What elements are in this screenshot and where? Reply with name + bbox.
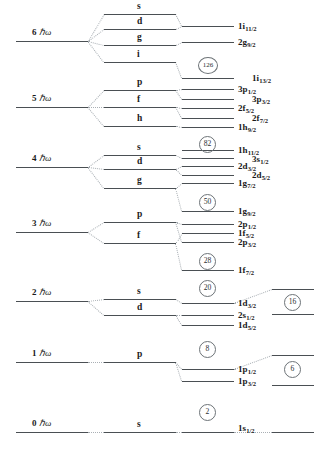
spin-orbit-level-l-1f5 xyxy=(182,233,234,234)
spin-orbit-label-l-1s1: 1s1/2 xyxy=(238,424,255,434)
oscillator-label-n3: 3 ℏω xyxy=(32,219,52,228)
oscillator-level-n3 xyxy=(16,232,88,233)
orbital-label-o-4s: s xyxy=(137,143,141,153)
orbital-level-o-0s xyxy=(104,432,176,433)
orbital-level-o-6i xyxy=(104,62,176,63)
orbital-level-o-5f xyxy=(104,107,176,108)
magic-number-50: 50 xyxy=(199,194,216,211)
far-right-level-fr-4 xyxy=(272,385,314,386)
spin-orbit-level-l-2d5 xyxy=(182,175,234,176)
spin-orbit-level-l-2s1 xyxy=(182,315,234,316)
orbital-level-o-5p xyxy=(104,90,176,91)
level-connector xyxy=(88,155,105,168)
level-connector xyxy=(175,90,182,100)
orbital-level-o-1p xyxy=(104,362,176,363)
spin-orbit-level-l-2f7 xyxy=(182,118,234,119)
magic-number-2: 2 xyxy=(199,404,216,421)
level-connector xyxy=(88,299,104,302)
spin-orbit-level-l-2f5 xyxy=(182,108,234,109)
oscillator-level-n4 xyxy=(16,167,88,168)
spin-orbit-level-l-2p3 xyxy=(182,242,234,243)
magic-number-6: 6 xyxy=(284,361,301,378)
spin-orbit-level-l-1d3 xyxy=(182,303,234,304)
spin-orbit-level-l-2d3 xyxy=(182,166,234,167)
spin-orbit-label-l-1f7: 1f7/2 xyxy=(238,266,254,276)
spin-orbit-label-l-2p3: 2p3/2 xyxy=(238,238,256,248)
spin-orbit-label-l-1g7: 1g7/2 xyxy=(238,179,256,189)
orbital-label-o-1p: p xyxy=(137,350,142,360)
orbital-label-o-6d: d xyxy=(137,17,142,27)
spin-orbit-level-l-1h9 xyxy=(182,127,234,128)
level-connector xyxy=(175,14,182,26)
level-connector xyxy=(175,315,182,326)
level-connector xyxy=(87,232,104,244)
magic-number-8: 8 xyxy=(199,341,216,358)
level-connector xyxy=(88,362,104,363)
orbital-label-o-3f: f xyxy=(137,231,140,241)
spin-orbit-level-l-1d5 xyxy=(182,325,234,326)
spin-orbit-level-l-1p3 xyxy=(182,381,234,382)
oscillator-label-n5: 5 ℏω xyxy=(32,94,52,103)
oscillator-label-n6: 6 ℏω xyxy=(32,28,52,37)
magic-number-28: 28 xyxy=(199,253,216,270)
spin-orbit-label-l-1p1: 1p1/2 xyxy=(238,365,256,375)
spin-orbit-level-l-1p1 xyxy=(182,369,234,370)
spin-orbit-level-l-2p1 xyxy=(182,224,234,225)
far-right-level-fr-5 xyxy=(272,432,314,433)
spin-orbit-level-l-3s1 xyxy=(182,158,234,159)
spin-orbit-label-l-1i13: 1i13/2 xyxy=(252,74,271,84)
far-right-level-fr-1 xyxy=(272,289,314,290)
spin-orbit-label-l-1d3: 1d3/2 xyxy=(238,299,256,309)
orbital-level-o-4d xyxy=(104,169,176,170)
oscillator-level-n6 xyxy=(16,41,88,42)
level-connector xyxy=(87,107,104,127)
level-connector xyxy=(88,107,104,108)
spin-orbit-label-l-1i11: 1i11/2 xyxy=(238,22,257,32)
shell-model-diagram: 6 ℏω5 ℏω4 ℏω3 ℏω2 ℏω1 ℏω0 ℏωsdgipfhsdgpf… xyxy=(0,0,315,450)
orbital-label-o-4g: g xyxy=(137,176,142,186)
orbital-label-o-5f: f xyxy=(137,95,140,105)
level-connector xyxy=(175,299,182,304)
spin-orbit-label-l-2g9: 2g9/2 xyxy=(238,38,256,48)
oscillator-level-n0 xyxy=(16,432,88,433)
orbital-label-o-2s: s xyxy=(137,287,141,297)
spin-orbit-level-l-3p1 xyxy=(182,89,234,90)
magic-number-126: 126 xyxy=(198,57,218,74)
spin-orbit-level-l-2g9 xyxy=(182,42,234,43)
level-connector xyxy=(88,222,105,233)
oscillator-label-n1: 1 ℏω xyxy=(32,349,52,358)
level-connector xyxy=(175,62,182,78)
oscillator-label-n4: 4 ℏω xyxy=(32,154,52,163)
orbital-level-o-2d xyxy=(104,315,176,316)
spin-orbit-label-l-1p3: 1p3/2 xyxy=(238,377,256,387)
orbital-label-o-6i: i xyxy=(137,50,140,60)
oscillator-level-n5 xyxy=(16,107,88,108)
orbital-label-o-4d: d xyxy=(137,157,142,167)
orbital-label-o-0s: s xyxy=(137,420,141,430)
spin-orbit-level-l-1f7 xyxy=(182,270,234,271)
orbital-label-o-2d: d xyxy=(137,303,142,313)
orbital-label-o-3p: p xyxy=(137,210,142,220)
orbital-label-o-6g: g xyxy=(137,33,142,43)
level-connector xyxy=(175,188,182,211)
far-right-level-fr-2 xyxy=(272,314,314,315)
oscillator-level-n2 xyxy=(16,301,88,302)
magic-number-20: 20 xyxy=(199,280,216,297)
spin-orbit-level-l-3p3 xyxy=(182,99,234,100)
spin-orbit-label-l-3p3: 3p3/2 xyxy=(252,95,270,105)
magic-number-16: 16 xyxy=(284,294,301,311)
orbital-label-o-6s: s xyxy=(137,2,141,12)
level-connector xyxy=(175,169,182,176)
level-connector xyxy=(87,301,104,316)
orbital-label-o-5p: p xyxy=(137,78,142,88)
orbital-level-o-6g xyxy=(104,45,176,46)
oscillator-level-n1 xyxy=(16,362,88,363)
level-connector xyxy=(88,432,104,433)
level-connector xyxy=(88,90,105,108)
far-right-level-fr-3 xyxy=(272,355,314,356)
orbital-level-o-2s xyxy=(104,299,176,300)
level-connector xyxy=(175,243,182,270)
orbital-level-o-3p xyxy=(104,222,176,223)
oscillator-label-n2: 2 ℏω xyxy=(32,288,52,297)
spin-orbit-level-l-1i13 xyxy=(182,78,234,79)
